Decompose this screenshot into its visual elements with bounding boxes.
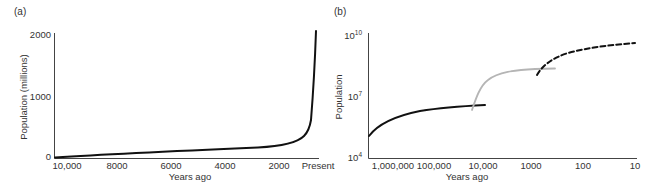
panel-a-xtick-present: Present — [302, 160, 335, 171]
panel-a-label: (a) — [14, 6, 26, 17]
panel-a-xtick-8000: 8000 — [106, 160, 127, 171]
panel-a-xtick-2000: 2000 — [268, 160, 289, 171]
panel-a-x-axis-title: Years ago — [169, 171, 211, 182]
panel-b-ytick-1e7: 107 — [348, 90, 363, 102]
panel-b-xtick-10000: 10,000 — [468, 160, 497, 171]
panel-a: (a) 2000 1000 0 Population (millions) 10… — [14, 6, 335, 182]
panel-a-xtick-4000: 4000 — [214, 160, 235, 171]
panel-a-population-curve — [55, 31, 316, 158]
panel-a-y-axis-title: Population (millions) — [18, 54, 29, 140]
panel-b-x-axis-title: Years ago — [446, 171, 488, 182]
panel-b: (b) 1010 107 104 Population 1,000,000 10… — [333, 6, 640, 182]
figure: (a) 2000 1000 0 Population (millions) 10… — [0, 0, 654, 187]
panel-a-ytick-0: 0 — [46, 151, 51, 162]
panel-b-ytick-1e10: 1010 — [344, 29, 362, 41]
panel-b-ytick-1e4: 104 — [348, 151, 363, 163]
panel-a-ytick-2000: 2000 — [30, 29, 51, 40]
panel-a-ytick-1000: 1000 — [30, 91, 51, 102]
panel-b-xtick-100: 100 — [575, 160, 591, 171]
panel-b-xtick-10: 10 — [630, 160, 641, 171]
panel-b-xtick-1000000: 1,000,000 — [372, 160, 414, 171]
panel-b-series-black-solid — [369, 105, 485, 136]
panel-a-xtick-6000: 6000 — [160, 160, 181, 171]
panel-b-series-gray — [472, 69, 555, 111]
panel-b-series-black-dashed — [537, 43, 635, 75]
panel-b-label: (b) — [334, 6, 346, 17]
panel-b-xtick-1000: 1000 — [520, 160, 541, 171]
panel-a-xtick-10000: 10,000 — [52, 160, 81, 171]
panel-b-y-axis-title: Population — [333, 75, 344, 120]
panel-b-xtick-100000: 100,000 — [417, 160, 451, 171]
